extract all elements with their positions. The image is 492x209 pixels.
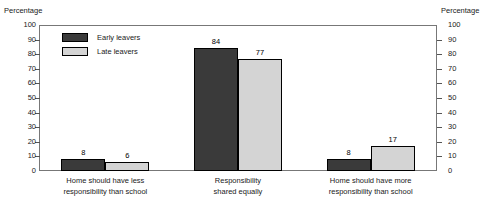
category-label-0-line-0: Home should have less (39, 176, 172, 187)
tick-label-left-40: 40 (6, 109, 36, 117)
tick-mark-right-80 (437, 54, 442, 55)
tick-label-right-100: 100 (448, 21, 478, 29)
bar-late-0 (105, 162, 149, 171)
tick-label-right-90: 90 (448, 36, 478, 44)
tick-label-right-10: 10 (448, 152, 478, 160)
bar-value-early-2: 8 (327, 149, 371, 157)
tick-label-right-20: 20 (448, 138, 478, 146)
right-axis-title: Percentage (441, 6, 479, 15)
tick-label-left-60: 60 (6, 79, 36, 87)
category-label-1-line-1: shared equally (172, 187, 305, 198)
legend-label-0: Early leavers (97, 33, 140, 42)
bar-value-late-1: 77 (238, 49, 282, 57)
tick-label-left-50: 50 (6, 94, 36, 102)
bar-value-late-0: 6 (105, 152, 149, 160)
tick-label-right-70: 70 (448, 65, 478, 73)
chart-legend: Early leaversLate leavers (62, 32, 140, 60)
legend-swatch-late (62, 47, 88, 56)
legend-swatch-early (62, 33, 88, 42)
tick-label-left-30: 30 (6, 123, 36, 131)
tick-label-left-100: 100 (6, 21, 36, 29)
bar-chart: Percentage Percentage 100100909080807070… (0, 0, 492, 209)
tick-mark-right-50 (437, 98, 442, 99)
tick-mark-right-40 (437, 113, 442, 114)
category-label-1-line-0: Responsibility (172, 176, 305, 187)
tick-label-right-40: 40 (448, 109, 478, 117)
left-axis-title: Percentage (4, 6, 42, 15)
tick-mark-right-90 (437, 40, 442, 41)
category-label-2-line-1: responsibility than school (304, 187, 437, 198)
legend-label-1: Late leavers (97, 47, 138, 56)
tick-mark-right-20 (437, 142, 442, 143)
tick-label-left-90: 90 (6, 36, 36, 44)
tick-mark-right-10 (437, 156, 442, 157)
tick-mark-right-60 (437, 83, 442, 84)
bar-early-2 (327, 159, 371, 171)
category-label-1: Responsibilityshared equally (172, 176, 305, 197)
tick-label-right-50: 50 (448, 94, 478, 102)
bar-late-1 (238, 59, 282, 171)
bar-early-1 (194, 48, 238, 171)
tick-label-right-0: 0 (448, 167, 478, 175)
tick-mark-right-70 (437, 69, 442, 70)
category-label-2: Home should have moreresponsibility than… (304, 176, 437, 197)
tick-label-right-60: 60 (448, 79, 478, 87)
bar-early-0 (61, 159, 105, 171)
bar-value-late-2: 17 (371, 136, 415, 144)
tick-label-left-0: 0 (6, 167, 36, 175)
tick-label-left-20: 20 (6, 138, 36, 146)
category-label-0-line-1: responsibility than school (39, 187, 172, 198)
tick-mark-right-30 (437, 127, 442, 128)
tick-label-left-70: 70 (6, 65, 36, 73)
tick-label-right-30: 30 (448, 123, 478, 131)
legend-item-1: Late leavers (62, 46, 140, 57)
legend-item-0: Early leavers (62, 32, 140, 43)
tick-label-left-10: 10 (6, 152, 36, 160)
tick-label-right-80: 80 (448, 50, 478, 58)
category-label-2-line-0: Home should have more (304, 176, 437, 187)
category-label-0: Home should have lessresponsibility than… (39, 176, 172, 197)
bar-value-early-1: 84 (194, 38, 238, 46)
bar-late-2 (371, 146, 415, 171)
tick-label-left-80: 80 (6, 50, 36, 58)
bar-value-early-0: 8 (61, 149, 105, 157)
